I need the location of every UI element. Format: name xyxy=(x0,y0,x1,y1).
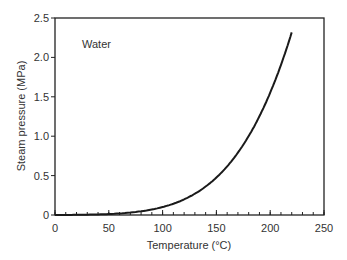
y-tick-label: 2.5 xyxy=(34,12,49,24)
y-tick-label: 0 xyxy=(43,209,49,221)
water-vapor-pressure-curve xyxy=(55,32,292,215)
y-tick-label: 1.0 xyxy=(34,130,49,142)
series-annotation-water: Water xyxy=(82,38,111,50)
x-axis-label: Temperature (°C) xyxy=(147,239,231,251)
x-tick-label: 50 xyxy=(103,222,115,234)
x-tick-label: 0 xyxy=(52,222,58,234)
y-tick-label: 2.0 xyxy=(34,51,49,63)
x-tick-label: 150 xyxy=(207,222,225,234)
y-tick-label: 0.5 xyxy=(34,170,49,182)
x-tick-label: 100 xyxy=(153,222,171,234)
steam-pressure-chart: 05010015020025000.51.01.52.02.5 Water Te… xyxy=(0,0,347,260)
y-tick-label: 1.5 xyxy=(34,91,49,103)
y-axis-label: Steam pressure (MPa) xyxy=(15,61,27,172)
x-tick-label: 200 xyxy=(261,222,279,234)
x-tick-label: 250 xyxy=(315,222,333,234)
